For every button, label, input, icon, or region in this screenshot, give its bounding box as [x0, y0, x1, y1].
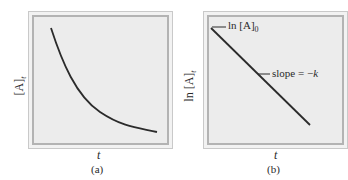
caption-b: (b) [267, 163, 280, 175]
y-axis-label-a-base: [A] [12, 79, 26, 96]
x-axis-label-b: t [274, 148, 277, 163]
x-axis-label-a: t [97, 148, 100, 163]
y-axis-label-a: [A]t [12, 72, 28, 100]
y-axis-label-a-sub: t [19, 77, 28, 79]
linear-plot [174, 0, 348, 180]
intercept-annotation: ln [A]0 [228, 19, 259, 34]
panel-a: [A]t t (a) [0, 0, 174, 180]
slope-annotation-prefix: slope = − [272, 67, 313, 79]
panel-b: ln [A]0 slope = −k ln [A]t t (b) [174, 0, 348, 180]
y-axis-label-b: ln [A]t [182, 64, 198, 108]
y-axis-label-b-base: ln [A] [182, 73, 196, 102]
exponential-decay-curve [51, 28, 157, 132]
caption-a: (a) [91, 163, 103, 175]
intercept-annotation-sub: 0 [255, 25, 259, 34]
intercept-annotation-base: ln [A] [228, 19, 255, 31]
slope-annotation-var: k [313, 67, 318, 79]
slope-annotation: slope = −k [272, 67, 318, 79]
y-axis-label-b-sub: t [189, 70, 198, 72]
